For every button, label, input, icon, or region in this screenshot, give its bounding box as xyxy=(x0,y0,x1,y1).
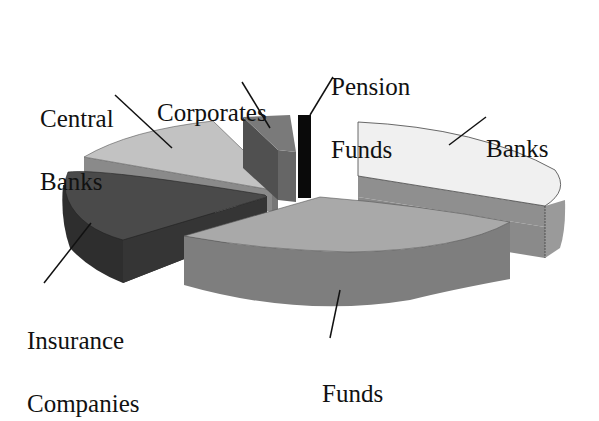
label-line: Central xyxy=(40,108,114,129)
label-funds: Funds xyxy=(322,341,383,421)
slice-pension-funds xyxy=(298,115,311,198)
label-banks: Banks xyxy=(486,96,549,180)
label-corporates: Corporates xyxy=(157,60,267,144)
label-insurance-companies: Insurance Companies xyxy=(27,288,140,421)
label-line: Pension xyxy=(331,76,410,97)
label-line: Funds xyxy=(331,139,410,160)
label-central-banks: Central Banks xyxy=(40,66,114,213)
label-line: Companies xyxy=(27,393,140,414)
label-line: Banks xyxy=(486,138,549,159)
label-line: Banks xyxy=(40,171,114,192)
label-pension-funds: Pension Funds xyxy=(331,34,410,181)
label-line: Corporates xyxy=(157,102,267,123)
label-line: Insurance xyxy=(27,330,140,351)
label-line: Funds xyxy=(322,383,383,404)
